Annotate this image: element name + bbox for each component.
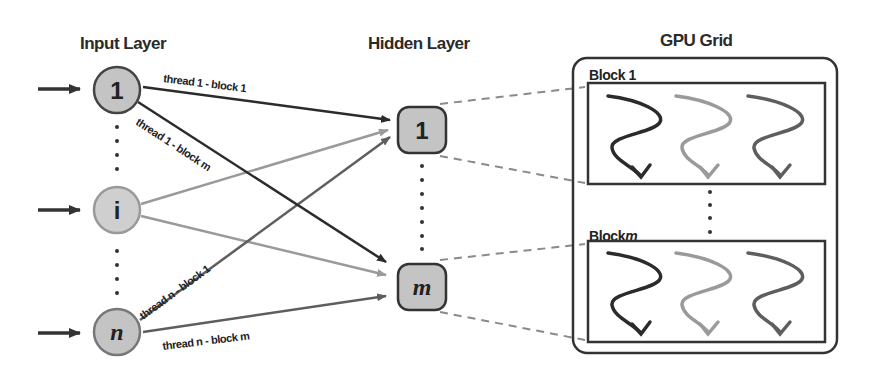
block-1: Block 1 [588,67,825,184]
thread-warp-icon [608,96,661,175]
edge-label-threadn-block1: thread n - block 1 [137,262,212,321]
edge-n-to-m [143,296,386,332]
input-node-label: 1 [110,77,123,104]
input-node-i: i [94,187,140,233]
thread-warp-icon [748,253,803,332]
dashed-connectors [440,87,585,340]
block-m: Blockm [588,228,825,342]
input-layer-title: Input Layer [80,34,167,53]
input-arrows [38,89,80,333]
hidden-layer-title: Hidden Layer [368,34,471,53]
edge-label-threadn-blockm: thread n - block m [162,329,251,352]
input-node-n: n [94,309,140,355]
hidden-ellipsis-dots [420,164,424,251]
input-node-label: n [110,319,123,345]
hidden-node-label: m [413,274,432,300]
edge-1-to-m [138,102,386,262]
hidden-node-label: 1 [415,117,428,144]
block-ellipsis-dots [708,190,712,234]
hidden-node-1: 1 [398,107,446,153]
gpu-grid-title: GPU Grid [660,31,733,50]
thread-warp-icon [676,253,731,332]
thread-warp-icon [608,253,661,332]
edge-1-to-1 [143,87,390,120]
edge-i-to-m [141,216,386,275]
hidden-node-m: m [398,264,446,310]
input-node-label: i [114,197,121,224]
neural-network-gpu-diagram: Input Layer Hidden Layer GPU Grid thread… [0,0,875,376]
block-1-label: Block 1 [589,67,637,83]
thread-warp-icon [748,96,803,175]
input-node-1: 1 [94,67,140,113]
thread-warp-icon [676,96,731,175]
